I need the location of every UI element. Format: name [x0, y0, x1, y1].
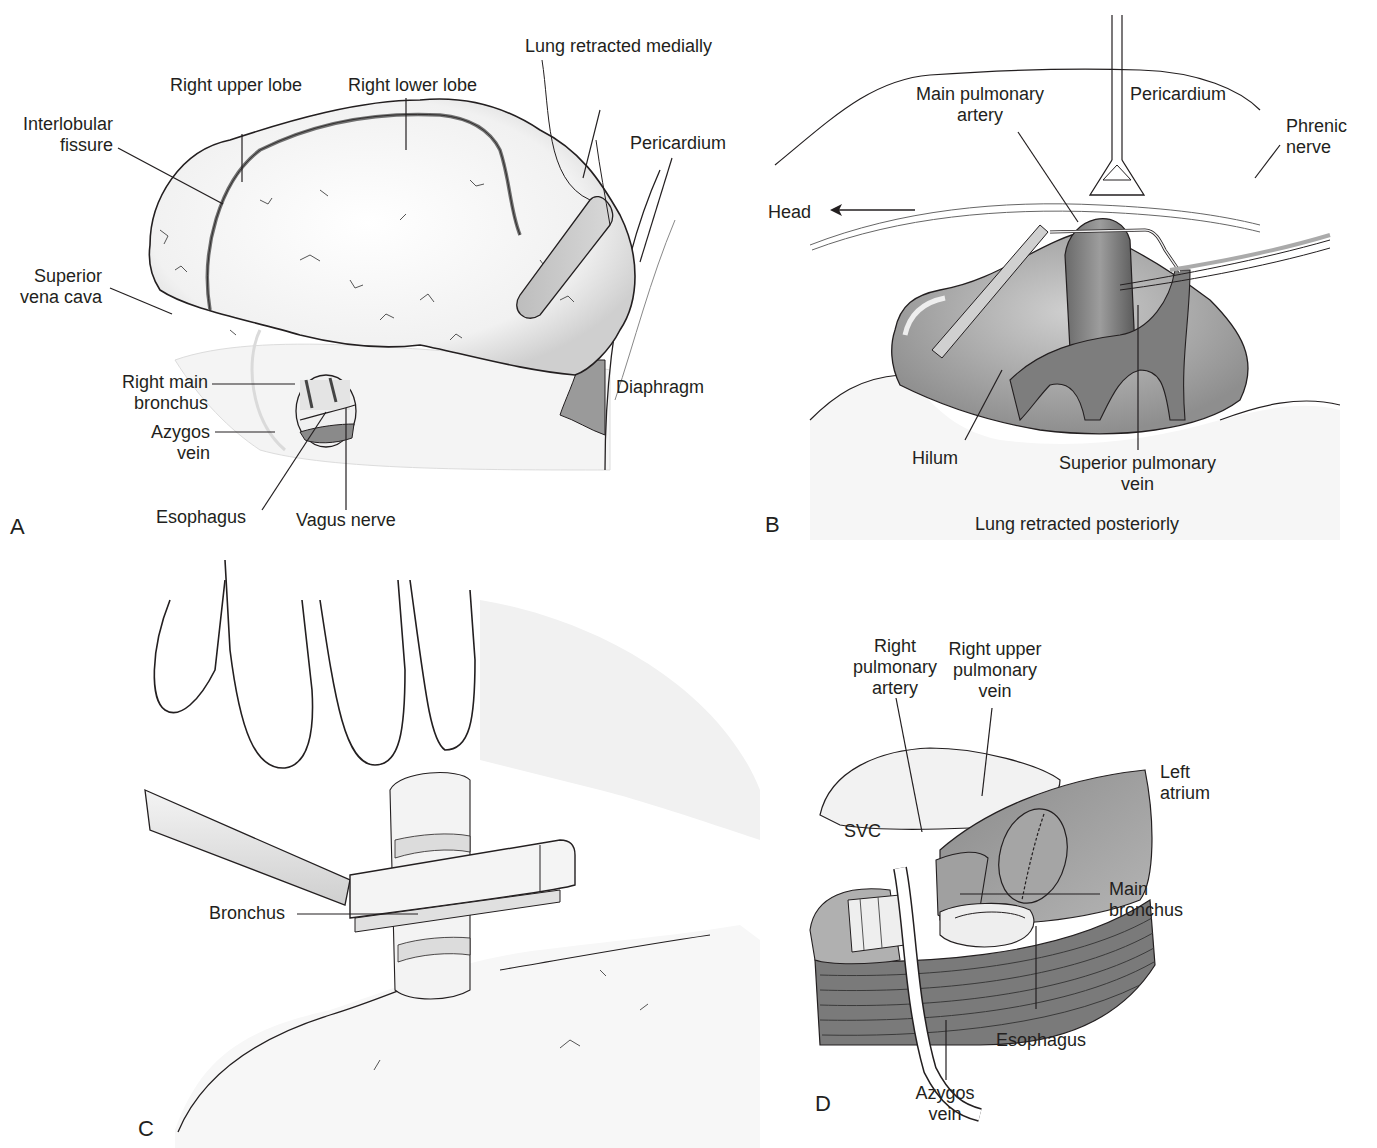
label-rupv-line2: pulmonary: [940, 660, 1050, 681]
label-azygos-vein-d: Azygos vein: [905, 1083, 985, 1125]
label-phrenic-nerve: Phrenic nerve: [1286, 116, 1347, 158]
label-rmb-line2: bronchus: [100, 393, 208, 414]
label-right-upper-lobe: Right upper lobe: [170, 75, 302, 96]
label-left-atrium: Left atrium: [1160, 762, 1210, 804]
label-right-pulmonary-artery: Right pulmonary artery: [845, 636, 945, 699]
label-azygos-a-line2: vein: [110, 443, 210, 464]
panel-b-illustration: [700, 0, 1377, 540]
label-svc: SVC: [844, 821, 881, 842]
label-mpa-line1: Main pulmonary: [905, 84, 1055, 105]
label-esophagus-d: Esophagus: [996, 1030, 1086, 1051]
label-interlobular-fissure-line1: Interlobular: [10, 114, 113, 135]
label-phrenic-line1: Phrenic: [1286, 116, 1347, 137]
label-svc-line2: vena cava: [10, 287, 102, 308]
label-main-bronchus: Main bronchus: [1109, 879, 1183, 921]
label-main-pulmonary-artery: Main pulmonary artery: [905, 84, 1055, 126]
panel-c: Bronchus C: [0, 540, 760, 1148]
panel-b: Main pulmonary artery Pericardium Phreni…: [700, 0, 1377, 540]
label-spv-line2: vein: [1045, 474, 1230, 495]
label-interlobular-fissure: Interlobular fissure: [10, 114, 113, 156]
label-hilum: Hilum: [912, 448, 958, 469]
label-azygos-a-line1: Azygos: [110, 422, 210, 443]
label-azygos-vein-a: Azygos vein: [110, 422, 210, 464]
label-rmb-line1: Right main: [100, 372, 208, 393]
label-superior-pulmonary-vein: Superior pulmonary vein: [1045, 453, 1230, 495]
label-rupv-line3: vein: [940, 681, 1050, 702]
panel-a: Lung retracted medially Right upper lobe…: [0, 0, 700, 540]
label-head: Head: [768, 202, 811, 223]
label-svc-line1: Superior: [10, 266, 102, 287]
label-azygos-d-line2: vein: [905, 1104, 985, 1125]
label-right-main-bronchus: Right main bronchus: [100, 372, 208, 414]
panel-letter-b: B: [765, 513, 780, 537]
label-left-atrium-line2: atrium: [1160, 783, 1210, 804]
label-phrenic-line2: nerve: [1286, 137, 1347, 158]
label-spv-line1: Superior pulmonary: [1045, 453, 1230, 474]
label-left-atrium-line1: Left: [1160, 762, 1210, 783]
label-rupv-line1: Right upper: [940, 639, 1050, 660]
label-interlobular-fissure-line2: fissure: [10, 135, 113, 156]
label-main-bronchus-line1: Main: [1109, 879, 1183, 900]
label-right-upper-pulmonary-vein: Right upper pulmonary vein: [940, 639, 1050, 702]
label-diaphragm: Diaphragm: [616, 377, 704, 398]
panel-letter-a: A: [10, 515, 25, 539]
label-bronchus-c: Bronchus: [209, 903, 285, 924]
label-right-lower-lobe: Right lower lobe: [348, 75, 477, 96]
label-vagus-nerve: Vagus nerve: [296, 510, 396, 531]
label-pericardium-b: Pericardium: [1130, 84, 1226, 105]
panel-letter-c: C: [138, 1117, 154, 1141]
caption-lung-retracted-posteriorly: Lung retracted posteriorly: [975, 514, 1179, 535]
panel-letter-d: D: [815, 1092, 831, 1116]
label-lung-retracted-medially: Lung retracted medially: [525, 36, 712, 57]
label-azygos-d-line1: Azygos: [905, 1083, 985, 1104]
label-mpa-line2: artery: [905, 105, 1055, 126]
label-superior-vena-cava: Superior vena cava: [10, 266, 102, 308]
label-rpa-line2: pulmonary: [845, 657, 945, 678]
label-rpa-line3: artery: [845, 678, 945, 699]
panel-c-illustration: [0, 540, 760, 1148]
panel-d: Right pulmonary artery Right upper pulmo…: [760, 600, 1377, 1148]
label-rpa-line1: Right: [845, 636, 945, 657]
label-main-bronchus-line2: bronchus: [1109, 900, 1183, 921]
label-esophagus-a: Esophagus: [156, 507, 246, 528]
